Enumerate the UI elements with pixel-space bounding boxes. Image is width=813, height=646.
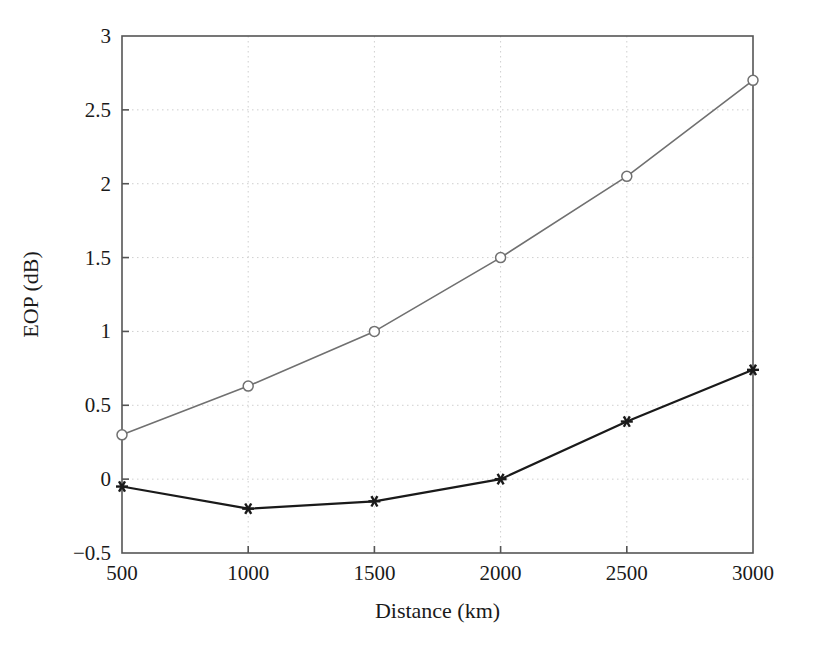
- y-tick-label: 3: [101, 24, 112, 48]
- y-tick-label: −0.5: [73, 541, 111, 565]
- data-point-marker: [748, 75, 758, 85]
- x-tick-label: 2000: [480, 561, 522, 585]
- y-tick-label: 2.5: [85, 98, 111, 122]
- y-tick-label: 1.5: [85, 246, 111, 270]
- x-tick-label: 3000: [732, 561, 774, 585]
- data-point-marker: [117, 430, 127, 440]
- y-tick-label: 2: [101, 172, 112, 196]
- y-tick-label: 0.5: [85, 393, 111, 417]
- data-point-marker: [243, 381, 253, 391]
- x-tick-label: 2500: [606, 561, 648, 585]
- line-chart: 50010001500200025003000 −0.500.511.522.5…: [0, 0, 813, 646]
- y-tick-label: 1: [101, 319, 112, 343]
- data-point-marker: [496, 253, 506, 263]
- x-axis-title: Distance (km): [375, 598, 500, 623]
- x-tick-label: 1000: [227, 561, 269, 585]
- data-point-marker: [622, 171, 632, 181]
- x-tick-label: 1500: [353, 561, 395, 585]
- y-axis-title: EOP (dB): [18, 251, 43, 338]
- chart-figure: 50010001500200025003000 −0.500.511.522.5…: [0, 0, 813, 646]
- y-tick-label: 0: [101, 467, 112, 491]
- data-point-marker: [369, 326, 379, 336]
